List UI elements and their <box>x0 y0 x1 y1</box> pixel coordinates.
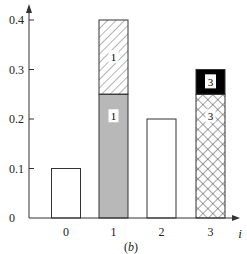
x-tick-label: 3 <box>208 225 214 239</box>
x-tick-label: 0 <box>63 225 69 239</box>
x-axis-label: i <box>238 226 242 241</box>
y-tick-label: 0.3 <box>9 63 24 77</box>
y-tick-label: 0.2 <box>9 112 24 126</box>
x-tick-label: 1 <box>111 225 117 239</box>
figure-caption: (b) <box>124 240 138 254</box>
stacked-bar-chart: 1133 00.10.20.30.40123i(b) <box>0 0 247 254</box>
x-tick-label: 2 <box>159 225 165 239</box>
segment-label: 3 <box>208 110 214 122</box>
segment-label: 3 <box>208 76 214 88</box>
bar-2-segment-0 <box>147 119 176 218</box>
y-tick-label: 0.1 <box>9 162 24 176</box>
segment-label: 1 <box>111 51 117 63</box>
y-tick-label: 0.4 <box>9 13 24 27</box>
bar-0-segment-0 <box>52 169 81 219</box>
y-axis-arrow-icon <box>26 4 32 13</box>
segment-label: 1 <box>111 110 117 122</box>
y-tick-label: 0 <box>9 211 15 225</box>
x-axis-arrow-icon <box>232 215 240 221</box>
bars-group: 1133 <box>52 20 226 218</box>
